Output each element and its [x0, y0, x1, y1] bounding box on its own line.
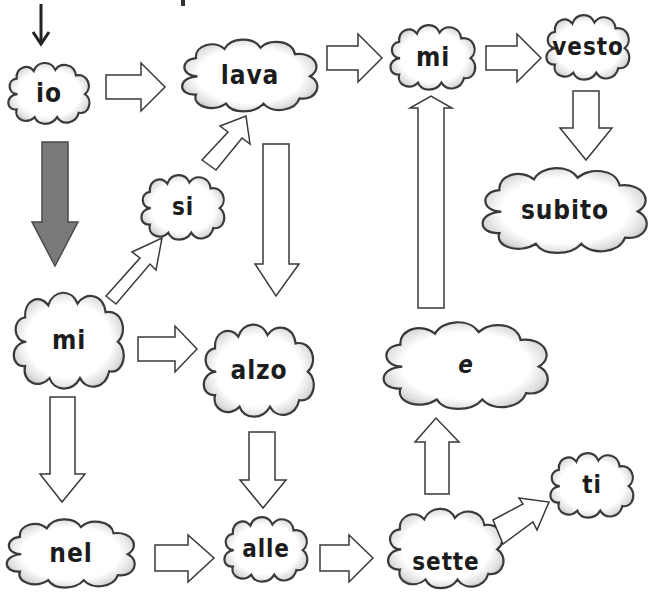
- node-ti: ti: [546, 450, 638, 520]
- node-label: io: [9, 60, 90, 126]
- arrow-up-icon: [413, 416, 461, 496]
- node-alle: alle: [220, 514, 312, 584]
- arrow-diagonal-icon: [100, 236, 166, 310]
- node-mi-top: mi: [386, 22, 480, 92]
- arrow-right-icon: [105, 62, 167, 112]
- node-io: io: [4, 60, 94, 126]
- gray-arrow-down-icon: [30, 140, 80, 268]
- arrow-down-icon: [238, 430, 288, 510]
- node-label: e: [384, 318, 548, 412]
- arrow-right-icon: [319, 534, 375, 584]
- node-label: si: [142, 172, 225, 242]
- node-label: subito: [483, 164, 647, 256]
- node-label: vesto: [547, 12, 630, 82]
- node-label: ti: [551, 450, 634, 520]
- arrow-right-icon: [154, 534, 216, 584]
- arrow-right-icon: [485, 33, 543, 83]
- arrow-diagonal-icon: [491, 496, 553, 550]
- node-alzo: alzo: [198, 320, 320, 420]
- start-arrow-icon: [30, 4, 52, 48]
- node-label: sette: [388, 505, 503, 594]
- node-lava: lava: [175, 36, 325, 114]
- arrow-diagonal-icon: [198, 110, 254, 176]
- arrow-right-icon: [137, 325, 199, 373]
- node-si: si: [137, 172, 229, 242]
- node-label: lava: [183, 36, 318, 114]
- node-e: e: [375, 318, 557, 412]
- node-vesto: vesto: [542, 12, 634, 82]
- arrow-down-icon: [558, 90, 614, 162]
- arrow-down-icon: [37, 396, 87, 504]
- arrow-up-icon: [408, 94, 454, 310]
- arrow-down-icon: [253, 142, 301, 298]
- node-nel: nel: [0, 516, 142, 590]
- arrow-right-icon: [326, 33, 384, 83]
- node-label: mi: [391, 22, 476, 92]
- node-label: alzo: [204, 320, 314, 420]
- node-label: nel: [7, 516, 135, 590]
- top-mark: [181, 0, 185, 6]
- node-label: alle: [225, 514, 308, 584]
- node-subito: subito: [474, 164, 656, 256]
